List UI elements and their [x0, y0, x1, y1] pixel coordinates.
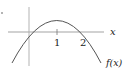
tick-label-1: 1: [54, 37, 60, 48]
dot-marker: [1, 12, 3, 14]
function-graph: 1 2 x f(x): [0, 0, 128, 74]
function-label: f(x): [105, 57, 123, 68]
x-axis-label: x: [110, 26, 116, 37]
tick-label-2: 2: [80, 37, 86, 48]
